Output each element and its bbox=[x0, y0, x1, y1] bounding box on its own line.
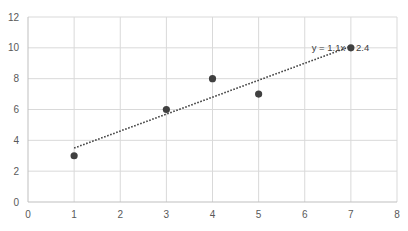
data-point-marker bbox=[163, 106, 170, 113]
x-tick-label: 2 bbox=[117, 209, 123, 220]
x-tick-label: 4 bbox=[210, 209, 216, 220]
y-tick-label: 10 bbox=[8, 42, 20, 53]
y-tick-label: 12 bbox=[8, 12, 20, 23]
scatter-chart: 012345678 024681012 y = 1.1x + 2.4 bbox=[0, 0, 408, 231]
data-point-marker bbox=[71, 152, 78, 159]
y-tick-label: 2 bbox=[13, 166, 19, 177]
y-tick-label: 6 bbox=[13, 104, 19, 115]
y-tick-label: 0 bbox=[13, 197, 19, 208]
x-tick-label: 3 bbox=[164, 209, 170, 220]
x-tick-label: 0 bbox=[25, 209, 31, 220]
x-axis-tick-labels: 012345678 bbox=[25, 209, 400, 220]
x-tick-label: 1 bbox=[71, 209, 77, 220]
y-axis-tick-labels: 024681012 bbox=[8, 12, 20, 208]
y-tick-label: 8 bbox=[13, 73, 19, 84]
x-tick-label: 8 bbox=[394, 209, 400, 220]
x-tick-label: 5 bbox=[256, 209, 262, 220]
trendline-equation-label: y = 1.1x + 2.4 bbox=[312, 42, 370, 53]
y-tick-label: 4 bbox=[13, 135, 19, 146]
x-tick-label: 7 bbox=[348, 209, 354, 220]
data-point-marker bbox=[209, 75, 216, 82]
x-tick-label: 6 bbox=[302, 209, 308, 220]
data-point-marker bbox=[255, 90, 262, 97]
